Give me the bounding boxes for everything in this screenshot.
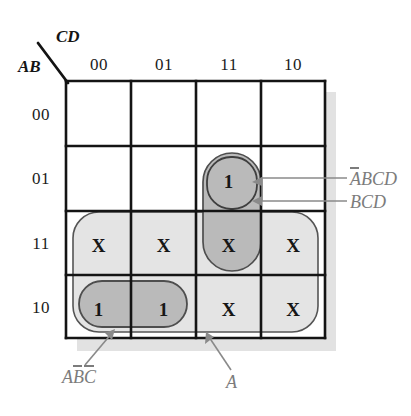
annotation-abc-a: A [62,367,73,387]
annotation-abcd-bar-term: A [350,168,361,190]
annotation-abc-b-bar: B [73,366,84,388]
row-header-10: 10 [28,299,54,316]
axis-label-ab: AB [18,58,41,75]
cell-r2-c1: X [131,236,196,255]
axis-label-cd: CD [56,28,80,45]
row-header-01: 01 [28,170,54,187]
col-header-10: 10 [280,56,306,73]
cell-r3-c2: X [196,300,261,319]
annotation-a: A [226,372,237,393]
cell-r2-c3: X [261,236,325,255]
annotation-abcd: ABCD [350,168,397,190]
col-header-01: 01 [151,56,177,73]
row-header-00: 00 [28,106,54,123]
cell-r3-c0: 1 [66,300,131,319]
row-header-11: 11 [28,235,54,252]
axis-diagonal [38,43,68,83]
annotation-abc: ABC [62,366,96,388]
col-header-11: 11 [216,56,242,73]
col-header-00: 00 [86,56,112,73]
cell-r2-c2: X [196,236,261,255]
kmap-figure: CD AB 00 01 11 10 00 01 11 10 1 X X X X … [0,0,411,416]
annotation-abc-c-bar: C [84,366,96,388]
cell-r3-c3: X [261,300,325,319]
cell-r3-c1: 1 [131,300,196,319]
cell-r2-c0: X [66,236,131,255]
cell-r1-c2: 1 [196,172,261,191]
annotation-abcd-rest: BCD [361,169,397,189]
annotation-bcd: BCD [350,192,386,213]
